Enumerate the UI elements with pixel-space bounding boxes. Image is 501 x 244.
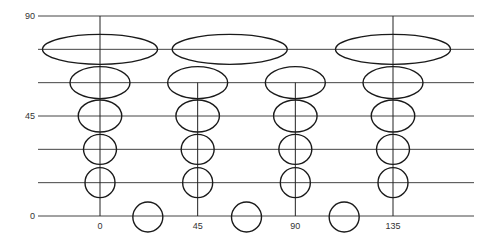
x-label-90: 90 — [290, 221, 300, 231]
y-label-90: 90 — [25, 11, 35, 21]
x-label-135: 135 — [385, 221, 400, 231]
latitude-gridlines — [38, 16, 474, 216]
axis-labels: 9045004590135 — [25, 11, 401, 231]
x-label-45: 45 — [193, 221, 203, 231]
equator-circle-112.5 — [329, 202, 359, 232]
equator-circle-67.5 — [232, 202, 262, 232]
distortion-ellipses — [43, 34, 451, 232]
tissot-indicatrix-diagram: 9045004590135 — [0, 0, 501, 244]
x-label-0: 0 — [97, 221, 102, 231]
equator-circle-22.5 — [133, 202, 163, 232]
y-label-45: 45 — [25, 111, 35, 121]
y-label-0: 0 — [30, 211, 35, 221]
